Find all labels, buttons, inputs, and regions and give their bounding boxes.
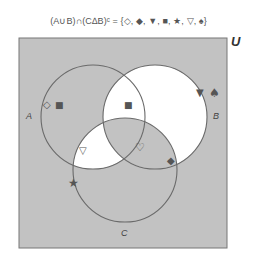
heart-outline-icon: ♡ [135, 141, 145, 154]
diamond-filled-icon: ◆ [167, 155, 175, 166]
square-icon: ■ [124, 100, 133, 110]
star-icon: ★ [68, 176, 79, 190]
set-c-label: C [121, 228, 128, 238]
venn-diagram: U A B C ◇ ■ ■ ▼ ♠ ▽ ♡ ◆ ★ [0, 0, 257, 259]
spade-icon: ♠ [209, 86, 220, 100]
triangle-down-filled-icon: ▼ [196, 87, 204, 98]
set-a-label: A [25, 111, 32, 121]
diamond-outline-icon: ◇ [43, 99, 51, 110]
square-icon: ■ [55, 100, 64, 110]
universe-label: U [231, 34, 241, 49]
triangle-down-outline-icon: ▽ [79, 145, 87, 156]
set-b-label: B [213, 111, 219, 121]
